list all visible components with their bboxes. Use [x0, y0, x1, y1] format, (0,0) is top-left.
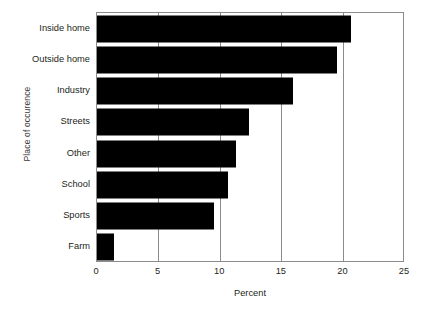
x-axis-tick-label: 5 — [155, 266, 160, 276]
y-axis-tick-label: Inside home — [14, 23, 90, 33]
y-axis-tick-label: Outside home — [14, 54, 90, 64]
y-axis-tick-label: Sports — [14, 210, 90, 220]
bars-layer — [97, 13, 403, 261]
y-axis-tick-label: Streets — [14, 116, 90, 126]
x-axis-tick-label: 15 — [276, 266, 286, 276]
x-axis-tick-label: 0 — [93, 266, 98, 276]
y-axis-tick-labels: Inside homeOutside homeIndustryStreetsOt… — [14, 12, 90, 262]
x-axis-tick-label: 20 — [337, 266, 347, 276]
bar — [97, 46, 337, 73]
x-axis-tick-labels: 0510152025 — [96, 266, 404, 282]
bar-chart-figure: Place of occurence Inside homeOutside ho… — [0, 0, 422, 313]
x-axis-tick-label: 10 — [214, 266, 224, 276]
y-axis-tick-label: Other — [14, 148, 90, 158]
y-axis-tick-label: Farm — [14, 241, 90, 251]
bar — [97, 234, 114, 261]
bar — [97, 203, 214, 230]
y-axis-tick-label: Industry — [14, 85, 90, 95]
bar — [97, 78, 293, 105]
x-axis-tick-label: 25 — [399, 266, 409, 276]
y-axis-tick-label: School — [14, 179, 90, 189]
bar — [97, 109, 249, 136]
bar — [97, 15, 351, 42]
bar — [97, 140, 236, 167]
plot-area — [96, 12, 404, 262]
x-axis-title: Percent — [96, 288, 404, 298]
bar — [97, 171, 228, 198]
